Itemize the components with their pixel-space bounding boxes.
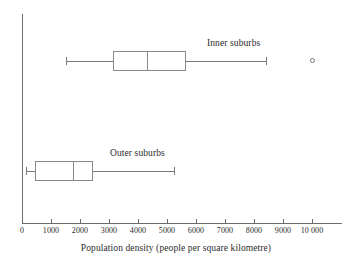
boxplot-series-layer: Inner suburbsOuter suburbs [0,0,352,265]
series-label-outer-suburbs: Outer suburbs [110,148,165,158]
median-line [147,51,148,71]
median-line [73,161,74,181]
boxplot-chart: 010002000300040005000600070008000900010 … [0,0,352,265]
whisker-cap-min [26,167,27,175]
box-iqr [113,51,186,71]
outlier-point [310,58,315,63]
whisker-left [26,171,35,172]
series-label-inner-suburbs: Inner suburbs [207,38,260,48]
whisker-cap-max [174,167,175,175]
x-axis-title: Population density (people per square ki… [0,243,352,253]
whisker-right [186,61,266,62]
whisker-left [66,61,114,62]
whisker-cap-min [66,57,67,65]
whisker-cap-max [266,57,267,65]
whisker-right [93,171,174,172]
box-iqr [35,161,93,181]
